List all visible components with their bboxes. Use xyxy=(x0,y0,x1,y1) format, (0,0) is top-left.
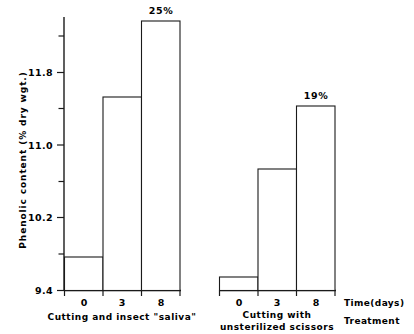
y-axis: 9.4 10.2 11.0 11.8 Phenolic content (% d… xyxy=(18,17,64,296)
group-label-left: Cutting and insect "saliva" xyxy=(48,312,197,322)
annotation-left-day8: 25% xyxy=(149,5,174,16)
bar-left-day3 xyxy=(103,97,142,291)
y-tick-label-3: 11.8 xyxy=(28,67,53,78)
y-tick-label-1: 10.2 xyxy=(28,212,53,223)
y-tick-label-0: 9.4 xyxy=(35,285,53,296)
bar-right-day8 xyxy=(297,106,336,291)
x-category-left-2: 8 xyxy=(158,297,165,308)
x-category-right-0: 0 xyxy=(236,297,243,308)
bar-right-day3 xyxy=(258,169,297,291)
y-tick-label-2: 11.0 xyxy=(28,140,53,151)
annotation-right-day8: 19% xyxy=(304,90,329,101)
bar-right-day0 xyxy=(220,277,259,291)
x-category-right-1: 3 xyxy=(274,297,281,308)
group-label-right-line1: Cutting with xyxy=(243,310,312,320)
x-category-right-2: 8 xyxy=(313,297,320,308)
x-category-left-1: 3 xyxy=(119,297,126,308)
chart-figure: 9.4 10.2 11.0 11.8 Phenolic content (% d… xyxy=(0,0,414,334)
y-axis-title: Phenolic content (% dry wgt.) xyxy=(18,71,28,248)
row-labels: Time(days) Treatment xyxy=(344,298,404,326)
right-panel-group: 19% 0 3 8 Cutting with unsterilized scis… xyxy=(219,90,336,332)
left-panel-group: 25% 0 3 8 Cutting and insect "saliva" xyxy=(48,5,197,322)
group-label-right-line2: unsterilized scissors xyxy=(220,322,334,332)
x-category-left-0: 0 xyxy=(81,297,88,308)
bar-left-day8 xyxy=(142,21,181,291)
bar-chart-canvas: 9.4 10.2 11.0 11.8 Phenolic content (% d… xyxy=(0,0,414,334)
row-label-treatment: Treatment xyxy=(344,316,400,326)
row-label-time: Time(days) xyxy=(344,298,404,308)
bar-left-day0 xyxy=(65,257,104,291)
